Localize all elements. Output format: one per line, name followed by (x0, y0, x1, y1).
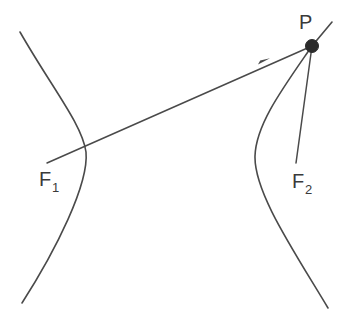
focus1-label-base: F (39, 168, 51, 190)
hyperbola-figure: P F 1 F 2 (0, 0, 340, 309)
figure-canvas: P F 1 F 2 (0, 0, 340, 309)
point-p-marker (306, 40, 319, 53)
point-p-label: P (299, 11, 312, 33)
figure-background (0, 0, 340, 309)
focus2-label-subscript: 2 (305, 182, 312, 197)
focus2-label-base: F (292, 170, 304, 192)
focus1-label-subscript: 1 (52, 180, 59, 195)
